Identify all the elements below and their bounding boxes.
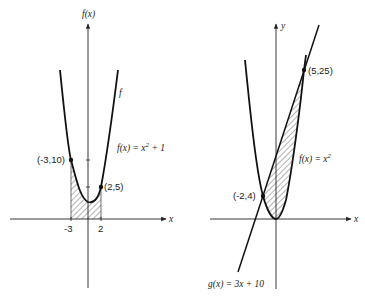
- right-shaded-region: [263, 70, 304, 219]
- left-tick-label-a: -3: [64, 223, 72, 234]
- right-point-a-label: (-2,4): [233, 190, 256, 201]
- left-chart: f(x) x f f(x) = x2 + 1 (-3,10) (2,5) -3 …: [10, 9, 174, 288]
- right-point-b: [302, 68, 306, 72]
- left-tick-label-b: 2: [98, 223, 103, 234]
- left-x-axis-label: x: [168, 214, 174, 224]
- right-line-label: g(x) = 3x + 10: [208, 279, 264, 290]
- left-point-a-label: (-3,10): [37, 154, 65, 165]
- right-parabola-label: f(x) = x2: [299, 152, 332, 165]
- right-point-a: [261, 194, 265, 198]
- left-point-b: [99, 185, 103, 189]
- left-shaded-region: [71, 160, 101, 219]
- left-curve-tag: f: [119, 88, 123, 98]
- left-point-a: [69, 158, 73, 162]
- right-chart: y x (5,25) (-2,4) f(x) = x2 g(x) = 3x + …: [208, 21, 359, 290]
- right-point-b-label: (5,25): [308, 65, 333, 76]
- left-y-axis-label: f(x): [82, 9, 95, 20]
- right-line-g: [238, 25, 319, 272]
- left-curve-label: f(x) = x2 + 1: [117, 141, 165, 154]
- left-point-b-label: (2,5): [104, 181, 124, 192]
- figure: f(x) x f f(x) = x2 + 1 (-3,10) (2,5) -3 …: [0, 0, 365, 298]
- right-x-axis-label: x: [353, 214, 359, 224]
- right-y-axis-label: y: [280, 21, 286, 31]
